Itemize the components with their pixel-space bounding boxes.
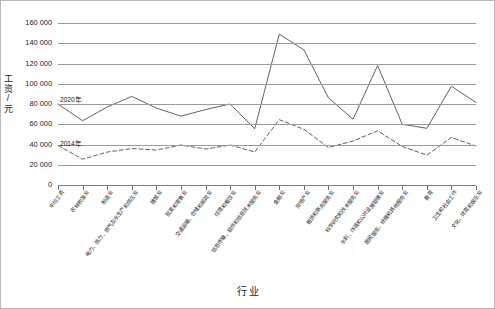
series-line-2014 <box>58 120 476 159</box>
y-tick-label: 100 000 <box>25 80 52 87</box>
x-tick-label: 农林牧渔业 <box>70 190 90 214</box>
series-label-2014: 2014年 <box>60 141 82 148</box>
gridline <box>58 43 476 44</box>
gridline <box>58 104 476 105</box>
x-tick-label: 房地产业 <box>294 190 311 210</box>
x-tick-label: 居民服务、修理和其他服务业 <box>364 190 409 246</box>
x-tick-label: 住宿和餐饮业 <box>214 190 237 218</box>
x-tick-label: 教育 <box>424 190 435 202</box>
x-tick-label: 批发和零售业 <box>165 190 188 218</box>
y-tick-label: 80 000 <box>29 100 52 107</box>
chart-figure: 工资/元 160 000140 000120 000100 00080 0006… <box>0 0 495 309</box>
series-line-2020 <box>58 34 476 129</box>
series-label-2020: 2020年 <box>60 97 82 104</box>
x-axis-title: 行业 <box>1 283 495 298</box>
gridline <box>58 165 476 166</box>
y-tick-label: 160 000 <box>25 19 52 26</box>
x-tick-label: 电力、热力、燃气及水生产和供应业 <box>85 190 140 258</box>
gridline <box>58 145 476 146</box>
plot-area <box>58 23 476 185</box>
y-axis-tick-labels: 160 000140 000120 000100 00080 00060 000… <box>1 23 55 185</box>
gridline <box>58 64 476 65</box>
x-tick-label: 信息传输、软件和信息技术服务业 <box>211 190 263 254</box>
x-axis-tick-labels: 平均工资农林牧渔业制造业电力、热力、燃气及水生产和供应业建筑业批发和零售业交通运… <box>1 186 495 281</box>
x-tick-label: 建筑业 <box>150 190 164 206</box>
x-tick-label: 卫生和社会工作 <box>432 190 458 222</box>
x-tick-label: 制造业 <box>101 190 115 206</box>
gridline <box>58 124 476 125</box>
x-tick-label: 平均工资 <box>48 190 65 210</box>
y-tick-label: 60 000 <box>29 121 52 128</box>
y-tick-label: 120 000 <box>25 60 52 67</box>
gridline <box>58 84 476 85</box>
y-tick-label: 140 000 <box>25 40 52 47</box>
y-tick-label: 20 000 <box>29 161 52 168</box>
gridline <box>58 23 476 24</box>
y-tick-label: 40 000 <box>29 141 52 148</box>
x-tick-label: 金融业 <box>273 190 287 206</box>
